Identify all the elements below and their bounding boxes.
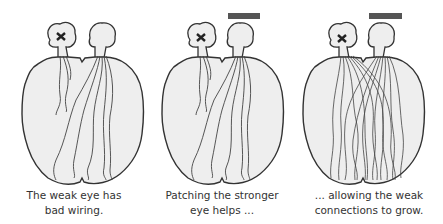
right-eye [368, 23, 394, 58]
panel-patching: Patching the stronger eye helps ... [148, 0, 296, 224]
caption-line-1: ... allowing the weak [295, 188, 443, 203]
eye-patch [228, 13, 260, 19]
brain-diagram [148, 0, 296, 190]
brain-outline [162, 57, 284, 184]
brain-outline [22, 57, 144, 184]
left-eye [188, 22, 216, 58]
caption: The weak eye has bad wiring. [0, 188, 148, 218]
left-eye [48, 22, 76, 58]
caption-line-2: bad wiring. [0, 203, 148, 218]
caption-line-1: The weak eye has [0, 188, 148, 203]
brain-diagram [295, 0, 443, 190]
caption: ... allowing the weak connections to gro… [295, 188, 443, 218]
brain-diagram [0, 0, 148, 190]
right-eye [89, 23, 115, 58]
eye-patch [369, 13, 402, 19]
caption-line-2: connections to grow. [295, 203, 443, 218]
panel-weak-eye: The weak eye has bad wiring. [0, 0, 148, 224]
right-eye [227, 23, 253, 58]
caption-line-2: eye helps ... [148, 203, 296, 218]
caption: Patching the stronger eye helps ... [148, 188, 296, 218]
panel-growth: ... allowing the weak connections to gro… [295, 0, 443, 224]
caption-line-1: Patching the stronger [148, 188, 296, 203]
